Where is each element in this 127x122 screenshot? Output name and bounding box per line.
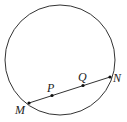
chord-mn [29,77,110,103]
point-m [27,101,30,104]
point-n [108,75,111,78]
label-p: P [46,81,55,95]
label-q: Q [78,70,87,84]
label-m: M [14,103,26,117]
circle [5,5,115,115]
label-n: N [112,71,122,85]
geometry-diagram: M P Q N [0,0,127,122]
point-q [81,84,84,87]
